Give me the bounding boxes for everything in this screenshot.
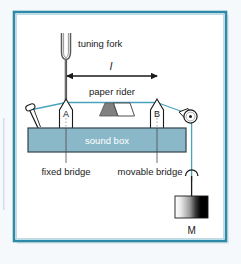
sound-box-label: sound box bbox=[85, 135, 129, 146]
bridge-a-label: A bbox=[63, 109, 69, 119]
mass-label: M bbox=[187, 225, 195, 236]
figure-canvas: tuning fork l paper rider bbox=[0, 0, 241, 264]
paper-rider bbox=[100, 103, 135, 116]
tuning-fork-label: tuning fork bbox=[78, 38, 123, 49]
movable-bridge-label: movable bridge bbox=[118, 166, 183, 177]
sonometer-diagram: tuning fork l paper rider bbox=[0, 0, 241, 264]
margin-rule bbox=[3, 118, 4, 210]
fixed-bridge-label: fixed bridge bbox=[41, 166, 90, 177]
paper-rider-label: paper rider bbox=[89, 86, 135, 97]
bridge-b-label: B bbox=[154, 109, 160, 119]
